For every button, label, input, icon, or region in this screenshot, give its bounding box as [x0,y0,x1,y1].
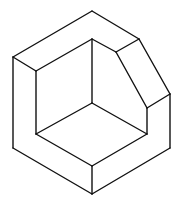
edge-inner_top-chamfer_inner_top [92,39,116,52]
edge-inner_upper_left-inner_top [36,39,92,71]
edge-outer_upper_left-inner_upper_left [13,57,36,71]
edge-inner_center-inner_bottom_left [36,103,92,134]
edge-outer_top-outer_upper_left [13,11,92,57]
edge-outer_bottom_left-outer_bottom [13,148,92,194]
edge-chamfer_inner_bottom-outer_right [147,94,170,108]
edge-outer_right-outer_top_right [139,39,170,94]
edge-outer_bottom-outer_bottom_right [92,148,170,194]
isometric-shape-drawing [0,0,178,201]
edge-inner_bottom_left-inner_bottom [36,134,92,166]
edge-chamfer_inner_top-outer_top_right [116,39,139,52]
isometric-figure [0,0,178,201]
edge-chamfer_inner_top-chamfer_inner_bottom [116,52,147,108]
edge-inner_bottom-inner_bottom_right [92,134,147,166]
edge-outer_top_right-outer_top [92,11,139,39]
edge-inner_center-inner_bottom_right [92,103,147,134]
